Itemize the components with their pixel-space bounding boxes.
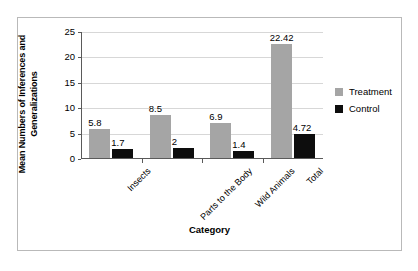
chart-frame: Mean Numbers of Inferences and Generaliz… [17,17,402,251]
bar-treatment [150,115,171,158]
control-swatch-icon [335,105,343,113]
treatment-swatch-icon [335,88,343,96]
legend-item-control: Control [335,103,392,114]
category-label: Wild Animals [253,166,296,209]
category-label: Total [304,166,325,187]
bar-control [294,134,315,158]
x-axis-separator [142,159,143,163]
bar-treatment [210,123,231,158]
bar-value-label: 1.4 [232,140,245,150]
bar-value-label: 22.42 [270,33,294,43]
chart-legend: Treatment Control [335,86,392,120]
bar-value-label: 2 [172,137,177,147]
y-tick-mark [78,159,81,160]
y-tick-label: 15 [64,78,75,88]
y-axis-line [81,32,82,159]
y-tick-label: 0 [70,154,75,164]
legend-label-treatment: Treatment [349,87,392,97]
bar-control [112,149,133,158]
y-tick-label: 10 [64,103,75,113]
bar-value-label: 1.7 [111,138,124,148]
category-label: Parts to the Body [198,166,254,222]
x-axis-separator [263,159,264,163]
x-axis-separator [202,159,203,163]
category-label: Insects [126,166,153,193]
bar-control [233,151,254,158]
bar-control [173,148,194,158]
bar-treatment [89,129,110,158]
bar-treatment [271,44,292,158]
bar-value-label: 5.8 [88,118,101,128]
x-axis-title: Category [18,224,401,235]
y-tick-label: 25 [64,27,75,37]
legend-label-control: Control [349,104,380,114]
bar-value-label: 4.72 [293,123,312,133]
bar-value-label: 8.5 [149,104,162,114]
plot-area: 0510152025 5.81.78.526.91.422.424.72 Ins… [81,32,323,159]
legend-item-treatment: Treatment [335,86,392,97]
y-tick-label: 20 [64,53,75,63]
y-axis-title: Mean Numbers of Inferences and Generaliz… [17,34,61,174]
bar-value-label: 6.9 [209,112,222,122]
y-tick-label: 5 [70,129,75,139]
